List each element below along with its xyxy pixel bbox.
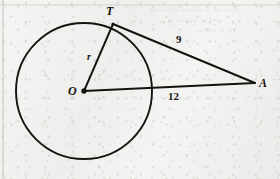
tangent-point-dot (111, 22, 114, 25)
label-point-a: A (259, 77, 267, 89)
center-point-dot (81, 88, 86, 93)
tangent-segment (113, 24, 255, 83)
label-point-o: O (68, 85, 77, 97)
label-distance-12: 12 (168, 91, 179, 102)
figure-page: the circle shown at the right is tangent… (0, 0, 280, 179)
geometry-diagram (0, 0, 280, 179)
label-tangent-length: 9 (176, 34, 182, 45)
label-radius-r: r (87, 52, 91, 62)
label-point-t: T (106, 5, 113, 17)
